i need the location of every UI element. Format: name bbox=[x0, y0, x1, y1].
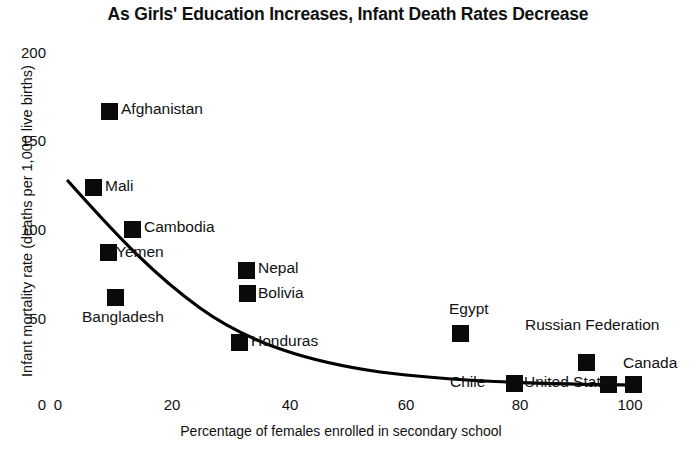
data-label-nepal: Nepal bbox=[258, 260, 299, 276]
data-label-egypt: Egypt bbox=[449, 301, 489, 317]
chart-figure: As Girls' Education Increases, Infant De… bbox=[0, 0, 696, 452]
data-label-mali: Mali bbox=[105, 178, 133, 194]
data-label-canada: Canada bbox=[623, 355, 677, 371]
data-label-united-states: United States bbox=[524, 374, 616, 390]
data-label-chile: Chile bbox=[450, 374, 485, 390]
data-label-bolivia: Bolivia bbox=[258, 285, 304, 301]
data-label-russian-federation: Russian Federation bbox=[525, 317, 645, 333]
data-label-yemen: Yemen bbox=[116, 244, 164, 260]
data-label-honduras: Honduras bbox=[251, 333, 318, 349]
data-label-bangladesh: Bangladesh bbox=[82, 309, 164, 325]
data-label-cambodia: Cambodia bbox=[144, 219, 215, 235]
data-label-afghanistan: Afghanistan bbox=[121, 101, 203, 117]
